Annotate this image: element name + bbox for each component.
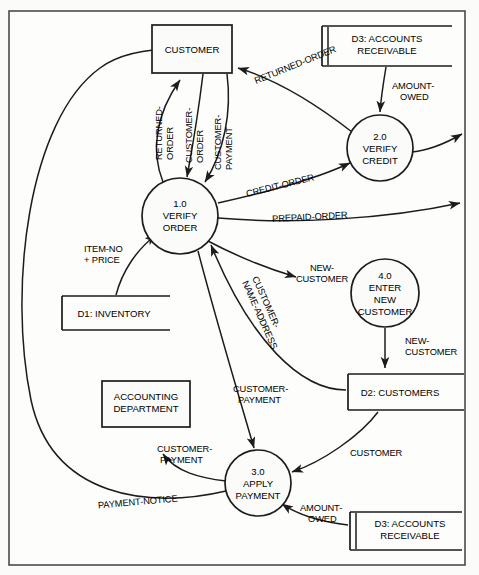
label-new-customer-1: NEW- — [310, 263, 334, 273]
process-2-verify-credit[interactable]: 2.0 VERIFY CREDIT — [347, 115, 413, 181]
label-amount-owed-top-line2: OWED — [400, 92, 429, 102]
label-customer-flow-text: CUSTOMER — [350, 448, 403, 458]
process-4-line2: NEW — [374, 294, 397, 305]
d3-bottom-label-line1: D3: ACCOUNTS — [375, 518, 446, 529]
label-customer-payment-mid-line1: CUSTOMER- — [233, 384, 288, 394]
d2-label: D2: CUSTOMERS — [361, 387, 440, 398]
label-customer-payment-mid-line2: PAYMENT — [238, 395, 281, 405]
entity-accounting-department[interactable]: ACCOUNTING DEPARTMENT — [102, 381, 190, 427]
process-3-number: 3.0 — [251, 466, 264, 477]
entity-customer[interactable]: CUSTOMER — [152, 25, 232, 73]
dfd-page: D3: ACCOUNTS RECEIVABLE D1: INVENTORY D2… — [0, 0, 479, 575]
label-new-customer-3: NEW- — [405, 336, 429, 346]
label-customer-order-line1: CUSTOMER- — [184, 108, 194, 163]
d3-bottom-label-line2: RECEIVABLE — [380, 530, 440, 541]
label-plus-price: + PRICE — [84, 255, 120, 265]
label-customer-payment-acct-line1: CUSTOMER- — [157, 444, 212, 454]
data-flow-diagram: D3: ACCOUNTS RECEIVABLE D1: INVENTORY D2… — [0, 0, 479, 575]
process-1-number: 1.0 — [173, 198, 186, 209]
process-1-verify-order[interactable]: 1.0 VERIFY ORDER — [142, 178, 218, 254]
label-customer-payment-top-line1: CUSTOMER- — [213, 115, 223, 170]
process-1-line2: ORDER — [163, 222, 198, 233]
label-customer-order-line2: ORDER — [195, 130, 205, 163]
process-4-line1: ENTER — [369, 282, 402, 293]
label-returned-order-line2: ORDER — [165, 127, 175, 160]
process-3-apply-payment[interactable]: 3.0 APPLY PAYMENT — [225, 450, 291, 516]
label-customer-payment-top-line2: PAYMENT — [224, 127, 234, 170]
process-2-line2: CREDIT — [362, 155, 398, 166]
accounting-label-line2: DEPARTMENT — [113, 403, 178, 414]
label-customer-payment-acct-line2: PAYMENT — [160, 455, 203, 465]
label-amount-owed-b1: AMOUNT- — [300, 503, 342, 513]
process-4-line3: CUSTOMER — [358, 306, 413, 317]
label-customer-payment-mid: CUSTOMER- PAYMENT — [233, 384, 288, 405]
label-returned-order-line1: RETURNED- — [154, 106, 164, 160]
entity-customer-label: CUSTOMER — [165, 44, 220, 55]
process-4-enter-new-customer[interactable]: 4.0 ENTER NEW CUSTOMER — [351, 259, 419, 327]
label-amount-owed-top-line1: AMOUNT- — [392, 81, 434, 91]
label-new-customer-2: CUSTOMER — [296, 274, 349, 284]
label-amount-owed-b2: OWED — [308, 514, 337, 524]
process-1-line1: VERIFY — [163, 210, 198, 221]
process-3-line2: PAYMENT — [236, 490, 281, 501]
process-2-number: 2.0 — [373, 131, 386, 142]
process-3-line1: APPLY — [243, 478, 274, 489]
d3-top-label-line2: RECEIVABLE — [357, 45, 417, 56]
label-new-customer-4: CUSTOMER — [405, 347, 458, 357]
d1-label: D1: INVENTORY — [77, 308, 151, 319]
process-2-line1: VERIFY — [363, 143, 398, 154]
label-item-no: ITEM-NO — [84, 244, 123, 254]
label-customer-flow: CUSTOMER — [350, 448, 403, 458]
d3-top-label-line1: D3: ACCOUNTS — [352, 33, 423, 44]
process-4-number: 4.0 — [378, 270, 391, 281]
label-item-no-price: ITEM-NO + PRICE — [84, 244, 123, 265]
accounting-label-line1: ACCOUNTING — [114, 391, 179, 402]
